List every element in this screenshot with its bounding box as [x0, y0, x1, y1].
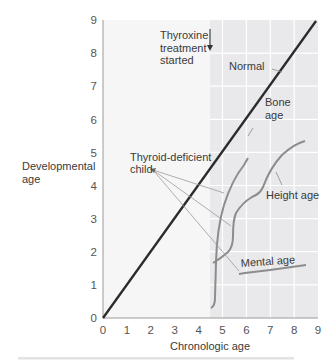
- x-axis-title: Chronologic age: [170, 340, 250, 352]
- svg-text:1: 1: [124, 324, 130, 336]
- svg-text:8: 8: [291, 324, 297, 336]
- cropped-caption: [18, 357, 294, 360]
- svg-text:0: 0: [91, 312, 97, 324]
- svg-text:9: 9: [315, 324, 321, 336]
- bone-label-line2: age: [265, 109, 283, 121]
- svg-text:4: 4: [91, 180, 98, 192]
- svg-text:3: 3: [91, 213, 97, 225]
- svg-text:5: 5: [219, 324, 225, 336]
- svg-text:9: 9: [91, 14, 97, 26]
- svg-text:8: 8: [91, 47, 97, 59]
- svg-text:2: 2: [148, 324, 154, 336]
- svg-text:2: 2: [91, 246, 97, 258]
- svg-text:3: 3: [171, 324, 177, 336]
- x-tick-labels: 0 1 2 3 4 5 6 7 8 9: [100, 324, 321, 336]
- svg-text:6: 6: [243, 324, 249, 336]
- y-axis-title-line2: age: [22, 173, 40, 185]
- svg-text:7: 7: [267, 324, 273, 336]
- deficient-label-line1: Thyroid-deficient: [130, 151, 211, 163]
- thyroxine-label-line1: Thyroxine: [160, 29, 208, 41]
- svg-text:4: 4: [195, 324, 202, 336]
- svg-text:0: 0: [100, 324, 106, 336]
- chart-svg: 0 1 2 3 4 5 6 7 8 9 0 1 2 3 4 5 6 7 8 9 …: [0, 0, 332, 361]
- deficient-label-line2: child: [130, 163, 153, 175]
- y-axis-title-line1: Developmental: [22, 160, 95, 172]
- svg-text:7: 7: [91, 80, 97, 92]
- thyroxine-label-line3: started: [160, 54, 194, 66]
- bone-label-line1: Bone: [265, 96, 291, 108]
- svg-text:1: 1: [91, 279, 97, 291]
- svg-text:6: 6: [91, 114, 97, 126]
- normal-label: Normal: [229, 60, 264, 72]
- plot-background-pre: [103, 20, 210, 318]
- height-label: Height age: [266, 189, 319, 201]
- thyroxine-label-line2: treatment: [160, 42, 206, 54]
- svg-text:5: 5: [91, 147, 97, 159]
